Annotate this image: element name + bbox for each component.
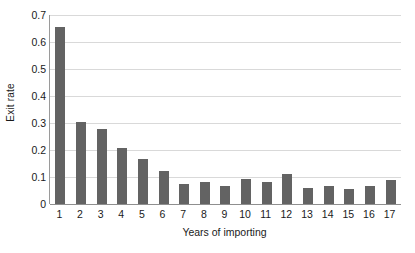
y-axis-title-text: Exit rate <box>5 83 16 121</box>
x-axis-tick-label: 4 <box>111 206 132 222</box>
y-axis-tick-label: 0.2 <box>18 144 46 156</box>
x-axis-tick-label: 11 <box>255 206 276 222</box>
x-axis-tick-label: 16 <box>359 206 380 222</box>
bar-slot <box>133 15 154 204</box>
bar-slot <box>174 15 195 204</box>
y-axis-tick-label: 0.1 <box>18 171 46 183</box>
bar[interactable] <box>76 122 86 204</box>
x-axis-tick-label: 14 <box>317 206 338 222</box>
bar-slot <box>339 15 360 204</box>
bar[interactable] <box>365 186 375 204</box>
bar-series <box>50 15 401 204</box>
bar[interactable] <box>344 189 354 204</box>
x-axis-tick-label: 9 <box>214 206 235 222</box>
bar[interactable] <box>55 27 65 204</box>
bar-slot <box>236 15 257 204</box>
bar-slot <box>215 15 236 204</box>
bar[interactable] <box>117 148 127 204</box>
bar-slot <box>298 15 319 204</box>
x-axis-tick-label: 13 <box>297 206 318 222</box>
bar[interactable] <box>282 174 292 204</box>
bar[interactable] <box>138 159 148 204</box>
bar-slot <box>380 15 401 204</box>
y-axis-tick-label: 0.5 <box>18 63 46 75</box>
bar[interactable] <box>220 186 230 204</box>
y-axis-tick-label: 0.6 <box>18 36 46 48</box>
bar-slot <box>91 15 112 204</box>
x-axis-tick-label: 8 <box>193 206 214 222</box>
x-axis-tick-label: 6 <box>152 206 173 222</box>
bar-slot <box>112 15 133 204</box>
bar[interactable] <box>97 129 107 204</box>
bar[interactable] <box>386 180 396 204</box>
bar[interactable] <box>200 182 210 204</box>
bar-slot <box>71 15 92 204</box>
x-axis-tick-label: 17 <box>379 206 400 222</box>
bar[interactable] <box>179 184 189 204</box>
x-axis-tick-label: 2 <box>70 206 91 222</box>
bar-slot <box>360 15 381 204</box>
y-axis-tick-labels: 00.10.20.30.40.50.60.7 <box>18 0 46 215</box>
bar[interactable] <box>159 171 169 204</box>
y-axis-tick-label: 0.4 <box>18 90 46 102</box>
bar-slot <box>277 15 298 204</box>
bar-slot <box>50 15 71 204</box>
bar-slot <box>153 15 174 204</box>
x-axis-tick-label: 10 <box>235 206 256 222</box>
bar-slot <box>318 15 339 204</box>
x-axis-line <box>50 204 401 205</box>
y-axis-tick-label: 0.7 <box>18 9 46 21</box>
x-axis-tick-label: 12 <box>276 206 297 222</box>
exit-rate-bar-chart: Exit rate 00.10.20.30.40.50.60.7 1234567… <box>0 0 415 253</box>
bar-slot <box>256 15 277 204</box>
x-axis-tick-label: 15 <box>338 206 359 222</box>
y-axis-tick-label: 0.3 <box>18 117 46 129</box>
y-axis-tick-label: 0 <box>18 198 46 210</box>
x-axis-tick-labels: 1234567891011121314151617 <box>49 206 400 222</box>
bar[interactable] <box>303 188 313 204</box>
x-axis-tick-label: 1 <box>49 206 70 222</box>
x-axis-title: Years of importing <box>49 226 400 238</box>
plot-area <box>49 15 401 204</box>
x-axis-tick-label: 3 <box>90 206 111 222</box>
bar-slot <box>194 15 215 204</box>
x-axis-tick-label: 5 <box>132 206 153 222</box>
x-axis-tick-label: 7 <box>173 206 194 222</box>
bar[interactable] <box>241 179 251 204</box>
bar[interactable] <box>262 182 272 204</box>
bar[interactable] <box>324 186 334 204</box>
y-axis-title: Exit rate <box>2 0 18 204</box>
